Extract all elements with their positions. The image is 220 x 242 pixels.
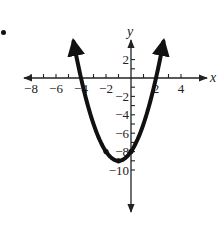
y-tick-label: −4 (115, 107, 129, 122)
x-tick-label: −6 (49, 81, 63, 96)
y-tick-label: −2 (115, 89, 129, 104)
curve-point (103, 149, 108, 154)
x-tick-label: −8 (24, 81, 38, 96)
tick-labels: −8−6−4−2242−2−4−6−8−10 (24, 52, 185, 177)
x-tick-label: 4 (178, 81, 185, 96)
x-axis-label: x (209, 70, 217, 85)
curve-point (116, 158, 121, 163)
y-tick-label: −10 (109, 163, 129, 178)
y-tick-label: 2 (123, 52, 130, 67)
curve-point (128, 149, 133, 154)
y-axis-label: y (125, 24, 134, 39)
parabola-chart: −8−6−4−2242−2−4−6−8−10 x y (0, 0, 220, 242)
x-tick-label: −2 (99, 81, 113, 96)
y-tick-label: −6 (115, 126, 129, 141)
